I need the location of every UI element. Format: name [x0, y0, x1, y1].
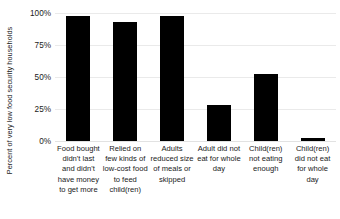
x-axis-category-label: Child(ren) not eating enough [242, 144, 289, 175]
x-axis-category-label: Relied on few kinds of low-cost food to … [102, 144, 149, 195]
bar[interactable] [160, 16, 184, 141]
y-axis-tick-label: 75% [35, 41, 51, 50]
bar-slot [102, 13, 149, 141]
y-axis-tick-labels: 0%25%50%75%100% [20, 13, 54, 141]
bar[interactable] [66, 16, 90, 141]
y-axis-tick-label: 100% [30, 9, 51, 18]
bar[interactable] [301, 138, 325, 141]
bar-slot [55, 13, 102, 141]
bar[interactable] [254, 74, 278, 141]
x-axis-category-labels: Food bought didn't last and didn't have … [55, 144, 336, 216]
x-axis-category-label: Adult did not eat for whole day [195, 144, 242, 175]
bar-slot [149, 13, 196, 141]
bar[interactable] [113, 22, 137, 141]
bar-chart-figure: Percent of very low food security househ… [0, 0, 340, 219]
bar-slot [195, 13, 242, 141]
gridline [55, 141, 336, 142]
bar-slot [289, 13, 336, 141]
x-axis-category-label: Food bought didn't last and didn't have … [55, 144, 102, 195]
x-axis-category-label: Child(ren) did not eat for whole day [289, 144, 336, 185]
bars-container [55, 13, 336, 141]
y-axis-title: Percent of very low food security househ… [0, 0, 20, 200]
bar[interactable] [207, 105, 231, 141]
y-axis-tick-label: 0% [39, 137, 51, 146]
y-axis-tick-label: 25% [35, 105, 51, 114]
y-axis-title-text: Percent of very low food security househ… [6, 26, 15, 174]
y-axis-tick-label: 50% [35, 73, 51, 82]
plot-area [55, 13, 336, 141]
bar-slot [242, 13, 289, 141]
x-axis-category-label: Adults reduced size of meals or skipped [149, 144, 196, 185]
